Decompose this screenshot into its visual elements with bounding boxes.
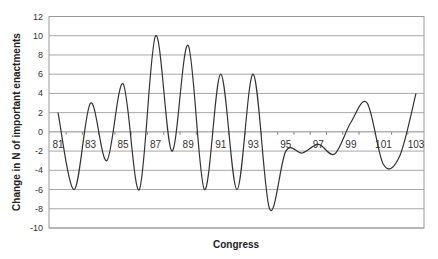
x-tick-label: 83: [85, 139, 97, 150]
x-tick-label: 85: [118, 139, 130, 150]
y-axis-title: Change in N of important enactments: [11, 33, 22, 211]
y-tick-label: -8: [35, 204, 43, 214]
y-tick-label: 12: [33, 12, 43, 22]
y-tick-label: 6: [38, 69, 43, 79]
x-tick-label: 93: [248, 139, 260, 150]
y-tick-label: 2: [38, 108, 43, 118]
x-tick-label: 91: [215, 139, 227, 150]
y-tick-label: 8: [38, 50, 43, 60]
x-tick-label: 87: [150, 139, 162, 150]
y-axis-tick-labels: 121086420-2-4-6-8-10: [30, 12, 43, 234]
y-tick-label: -2: [35, 146, 43, 156]
y-tick-label: 10: [33, 31, 43, 41]
y-tick-label: 0: [38, 127, 43, 137]
gridlines: [49, 17, 424, 229]
plot-frame: [49, 17, 424, 229]
line-chart: 121086420-2-4-6-8-10 8183858789919395979…: [0, 0, 438, 259]
y-tick-label: 4: [38, 88, 43, 98]
y-tick-label: -6: [35, 185, 43, 195]
x-tick-label: 99: [345, 139, 357, 150]
x-tick-label: 103: [408, 139, 425, 150]
x-axis-title: Congress: [213, 239, 260, 250]
x-tick-label: 89: [183, 139, 195, 150]
y-tick-label: -10: [30, 223, 43, 233]
x-axis-tick-labels: 81838587899193959799101103: [52, 139, 424, 150]
y-tick-label: -4: [35, 165, 43, 175]
data-series-line: [58, 35, 416, 210]
